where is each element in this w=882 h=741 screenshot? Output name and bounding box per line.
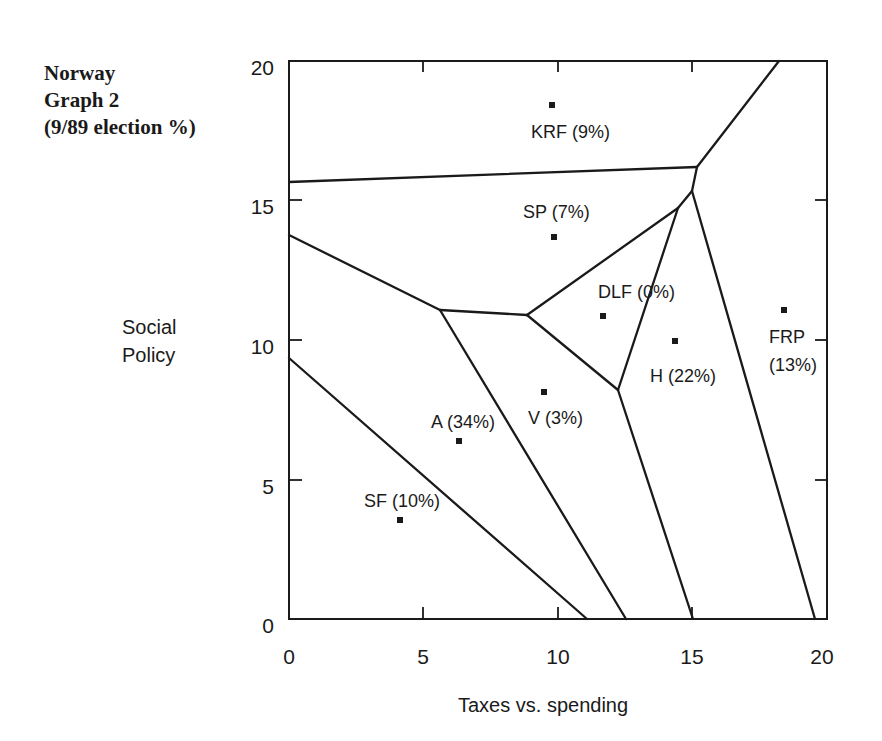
label-sf: SF (10%) [364, 491, 440, 511]
point-h [672, 338, 678, 344]
voronoi-boundaries [289, 61, 815, 619]
x-tick-label: 10 [546, 645, 569, 668]
x-tick-label: 20 [810, 645, 833, 668]
label-h: H (22%) [650, 366, 716, 386]
y-tick-label: 5 [262, 475, 274, 498]
boundary-line [697, 61, 779, 167]
boundary-line [289, 167, 697, 182]
point-frp [781, 307, 787, 313]
x-tick-label: 15 [680, 645, 703, 668]
y-tick-label: 20 [251, 56, 274, 79]
party-points [397, 102, 787, 523]
label-a: A (34%) [431, 412, 495, 432]
point-sp [551, 234, 557, 240]
label-dlf: DLF (0%) [598, 282, 675, 302]
boundary-line [440, 310, 527, 315]
label-v: V (3%) [528, 408, 583, 428]
point-sf [397, 517, 403, 523]
label-frp-line-1: FRP [769, 327, 805, 347]
point-dlf [600, 313, 606, 319]
point-krf [549, 102, 555, 108]
label-krf: KRF (9%) [531, 122, 610, 142]
boundary-line [527, 315, 618, 390]
y-tick-label: 10 [251, 335, 274, 358]
boundary-line [678, 191, 692, 208]
boundary-line [618, 390, 693, 619]
boundary-line [289, 235, 440, 310]
x-tick-label: 0 [283, 645, 295, 668]
y-tick-label: 15 [251, 195, 274, 218]
point-a [456, 438, 462, 444]
label-frp-line-2: (13%) [769, 355, 817, 375]
y-tick-label: 0 [262, 614, 274, 637]
plot-area: 20 15 10 5 0 0 5 10 15 20 KRF (9%) SP (7… [0, 0, 882, 741]
x-tick-label: 5 [417, 645, 429, 668]
boundary-line [289, 358, 587, 619]
point-v [541, 389, 547, 395]
label-sp: SP (7%) [523, 202, 590, 222]
boundary-line [692, 167, 697, 191]
boundary-line [692, 191, 815, 619]
